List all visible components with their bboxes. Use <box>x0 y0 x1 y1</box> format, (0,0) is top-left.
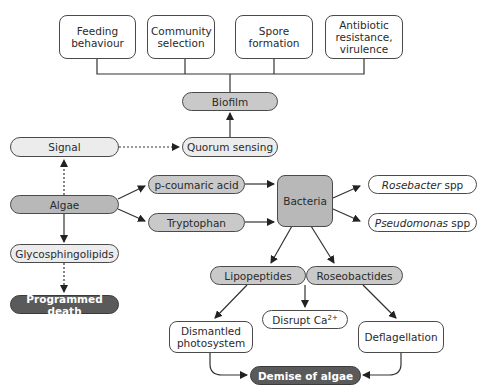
node-p-coumaric-acid: p-coumaric acid <box>148 175 245 194</box>
node-tryptophan: Tryptophan <box>148 213 245 232</box>
node-roseobactides: Roseobactides <box>306 266 403 285</box>
node-label: Programmed death <box>11 293 118 317</box>
ion-charge: 2+ <box>328 313 338 321</box>
node-label: Deflagellation <box>364 331 437 343</box>
species-suffix: spp <box>448 217 470 229</box>
node-label: Glycosphingolipids <box>15 248 113 260</box>
node-label: Biofilm <box>212 96 248 108</box>
node-label: Quorum sensing <box>187 141 273 153</box>
node-label: Dismantled photosystem <box>173 325 249 349</box>
node-lipopeptides: Lipopeptides <box>210 266 306 285</box>
node-label: Bacteria <box>283 195 327 207</box>
node-label: p-coumaric acid <box>154 179 238 191</box>
node-community-selection: Community selection <box>147 15 215 59</box>
node-antibiotic-resistance: Antibiotic resistance, virulence <box>325 15 403 59</box>
node-signal: Signal <box>10 137 119 157</box>
node-label: Spore formation <box>244 25 304 49</box>
node-pseudomonas-spp: Pseudomonas spp <box>368 213 477 232</box>
node-label: Tryptophan <box>167 217 226 229</box>
node-demise-of-algae: Demise of algae <box>250 366 361 385</box>
node-quorum-sensing: Quorum sensing <box>182 137 278 157</box>
node-label: Roseobactides <box>316 270 392 282</box>
genus-name: Rosebacter <box>382 179 441 191</box>
node-feeding-behaviour: Feeding behaviour <box>59 15 136 59</box>
node-dismantled-photosystem: Dismantled photosystem <box>169 321 253 353</box>
node-label: Disrupt Ca <box>272 314 327 326</box>
node-label: Demise of algae <box>258 370 353 382</box>
node-spore-formation: Spore formation <box>235 15 313 59</box>
node-programmed-death: Programmed death <box>10 295 119 314</box>
node-label: Signal <box>48 141 80 153</box>
node-algae: Algae <box>10 195 119 214</box>
node-label: Feeding behaviour <box>70 25 126 49</box>
node-glycosphingolipids: Glycosphingolipids <box>10 244 119 263</box>
node-label: Antibiotic resistance, virulence <box>333 19 395 55</box>
node-disrupt-ca: Disrupt Ca2+ <box>262 310 348 329</box>
node-label: Lipopeptides <box>224 270 291 282</box>
node-deflagellation: Deflagellation <box>358 321 444 353</box>
genus-name: Pseudomonas <box>375 217 448 229</box>
node-rosebacter-spp: Rosebacter spp <box>368 175 477 194</box>
node-label: Algae <box>50 199 80 211</box>
node-biofilm: Biofilm <box>182 92 278 111</box>
node-label: Community selection <box>151 25 211 49</box>
bracket-line <box>97 59 364 74</box>
node-bacteria: Bacteria <box>277 175 333 227</box>
species-suffix: spp <box>441 179 463 191</box>
